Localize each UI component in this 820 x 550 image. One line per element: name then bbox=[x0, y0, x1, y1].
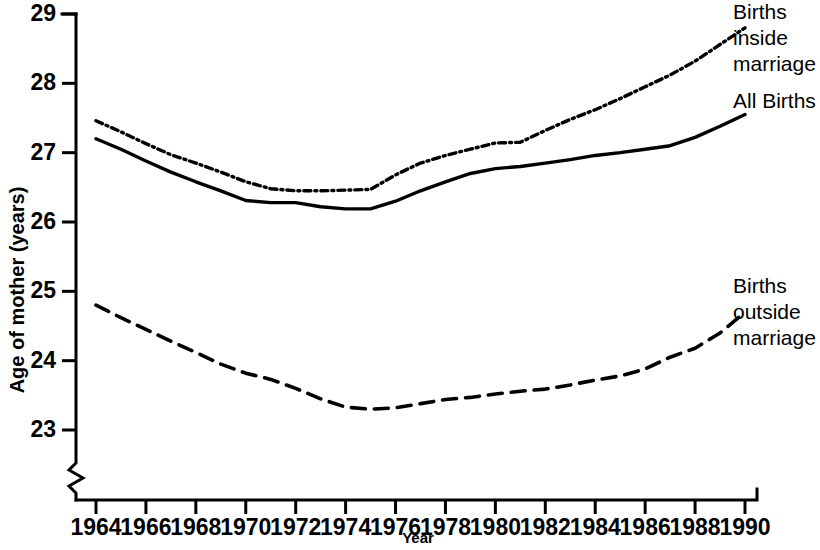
data-series-group bbox=[96, 28, 745, 409]
series-annotations-group: BirthsinsidemarriageAll BirthsBirthsouts… bbox=[733, 0, 816, 349]
x-axis-ticks bbox=[96, 500, 745, 514]
y-axis-tick-labels: 23242526272829 bbox=[30, 0, 56, 442]
series-line-births-inside-marriage bbox=[96, 28, 745, 191]
annotation-births-inside-marriage: Birthsinsidemarriage bbox=[733, 0, 816, 75]
annotation-all-births: All Births bbox=[733, 89, 816, 112]
y-axis-line bbox=[69, 14, 83, 500]
annotation-line: outside bbox=[733, 300, 801, 323]
y-tick-label-27: 27 bbox=[30, 139, 56, 165]
x-tick-label-1980: 1980 bbox=[470, 514, 521, 540]
x-tick-label-1986: 1986 bbox=[620, 514, 671, 540]
y-tick-label-29: 29 bbox=[30, 0, 56, 26]
annotation-line: marriage bbox=[733, 326, 816, 349]
series-line-births-outside-marriage bbox=[96, 305, 745, 409]
x-tick-label-1974: 1974 bbox=[320, 514, 371, 540]
x-axis-title: Year bbox=[402, 529, 434, 546]
y-tick-label-25: 25 bbox=[30, 277, 56, 303]
annotation-line: marriage bbox=[733, 52, 816, 75]
x-tick-label-1990: 1990 bbox=[719, 514, 770, 540]
x-tick-label-1964: 1964 bbox=[70, 514, 121, 540]
x-tick-label-1982: 1982 bbox=[520, 514, 571, 540]
y-axis-ticks bbox=[62, 14, 76, 430]
annotation-line: inside bbox=[733, 26, 788, 49]
x-tick-label-1988: 1988 bbox=[669, 514, 720, 540]
y-tick-label-24: 24 bbox=[30, 347, 56, 373]
y-tick-label-28: 28 bbox=[30, 69, 56, 95]
x-tick-label-1970: 1970 bbox=[220, 514, 271, 540]
line-chart-figure: 23242526272829 1964196619681970197219741… bbox=[0, 0, 820, 550]
y-tick-label-26: 26 bbox=[30, 208, 56, 234]
annotation-line: Births bbox=[733, 0, 787, 23]
x-tick-label-1968: 1968 bbox=[170, 514, 221, 540]
x-axis-line bbox=[76, 489, 757, 500]
x-tick-label-1984: 1984 bbox=[570, 514, 621, 540]
x-tick-label-1966: 1966 bbox=[120, 514, 171, 540]
y-tick-label-23: 23 bbox=[30, 416, 56, 442]
chart-container: 23242526272829 1964196619681970197219741… bbox=[0, 0, 820, 550]
y-axis-title: Age of mother (years) bbox=[6, 187, 28, 394]
annotation-births-outside-marriage: Birthsoutsidemarriage bbox=[733, 274, 816, 349]
annotation-line: All Births bbox=[733, 89, 816, 112]
annotation-line: Births bbox=[733, 274, 787, 297]
x-tick-label-1972: 1972 bbox=[270, 514, 321, 540]
axes-group bbox=[62, 14, 757, 500]
